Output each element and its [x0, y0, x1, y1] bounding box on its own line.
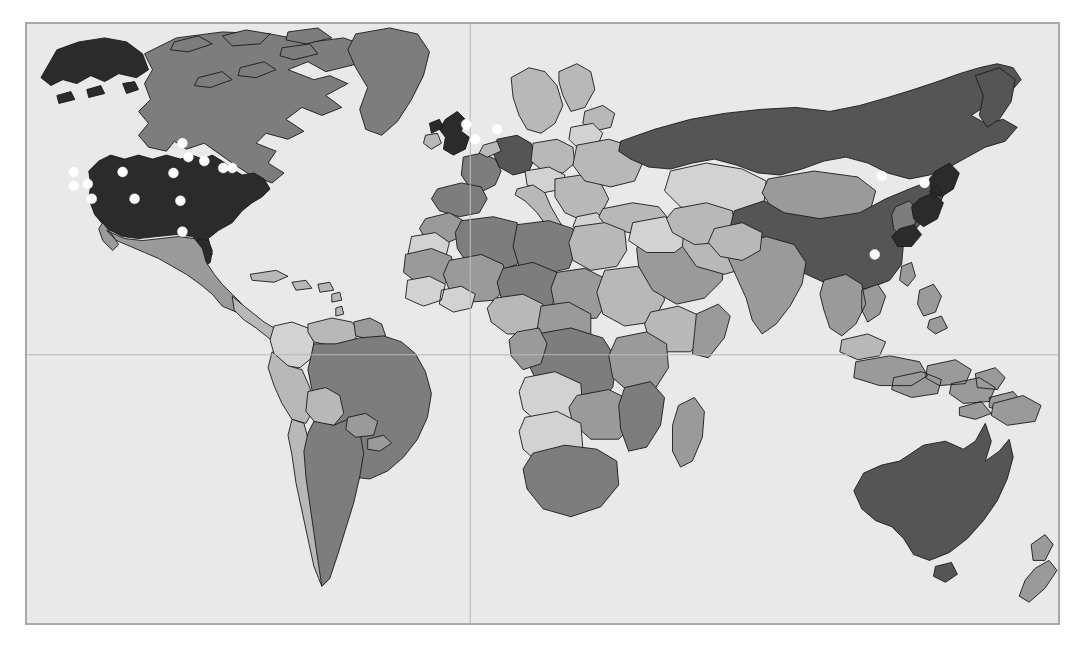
map-frame[interactable] [25, 22, 1060, 625]
location-marker-dot[interactable] [87, 194, 97, 204]
location-marker-dot[interactable] [177, 138, 187, 148]
location-marker-dot[interactable] [168, 168, 178, 178]
location-marker-dot[interactable] [118, 167, 128, 177]
location-marker-dot[interactable] [69, 167, 79, 177]
location-marker-dot[interactable] [183, 152, 193, 162]
location-marker-dot[interactable] [877, 171, 887, 181]
location-marker-dot[interactable] [920, 178, 930, 188]
world-map-svg[interactable] [27, 24, 1058, 623]
location-marker-dot[interactable] [227, 163, 237, 173]
location-marker-dot[interactable] [83, 179, 93, 189]
region-egypt [569, 223, 627, 271]
location-marker-dot[interactable] [69, 181, 79, 191]
location-marker-dot[interactable] [218, 163, 228, 173]
location-marker-dot[interactable] [130, 194, 140, 204]
location-marker-dot[interactable] [177, 227, 187, 237]
location-marker-dot[interactable] [492, 124, 502, 134]
location-marker-dot[interactable] [470, 134, 480, 144]
world-map-page [0, 0, 1085, 649]
location-marker-dot[interactable] [175, 196, 185, 206]
location-marker-dot[interactable] [461, 119, 471, 129]
location-marker-dot[interactable] [870, 249, 880, 259]
location-marker-dot[interactable] [199, 156, 209, 166]
